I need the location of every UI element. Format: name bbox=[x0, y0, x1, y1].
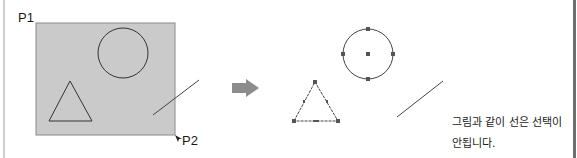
label-p2: P2 bbox=[182, 133, 198, 148]
label-p1: P1 bbox=[18, 10, 34, 25]
caption-line-2: 안됩니다. bbox=[452, 133, 563, 154]
selected-circle bbox=[341, 27, 395, 81]
right-arrow-icon bbox=[232, 79, 259, 97]
selected-triangle bbox=[292, 80, 340, 123]
selection-rectangle bbox=[36, 23, 175, 135]
caption-line-1: 그림과 같이 선은 선택이 bbox=[452, 112, 563, 133]
unselected-line bbox=[397, 81, 443, 117]
caption: 그림과 같이 선은 선택이 안됩니다. bbox=[452, 112, 563, 154]
cursor-icon bbox=[175, 135, 182, 142]
